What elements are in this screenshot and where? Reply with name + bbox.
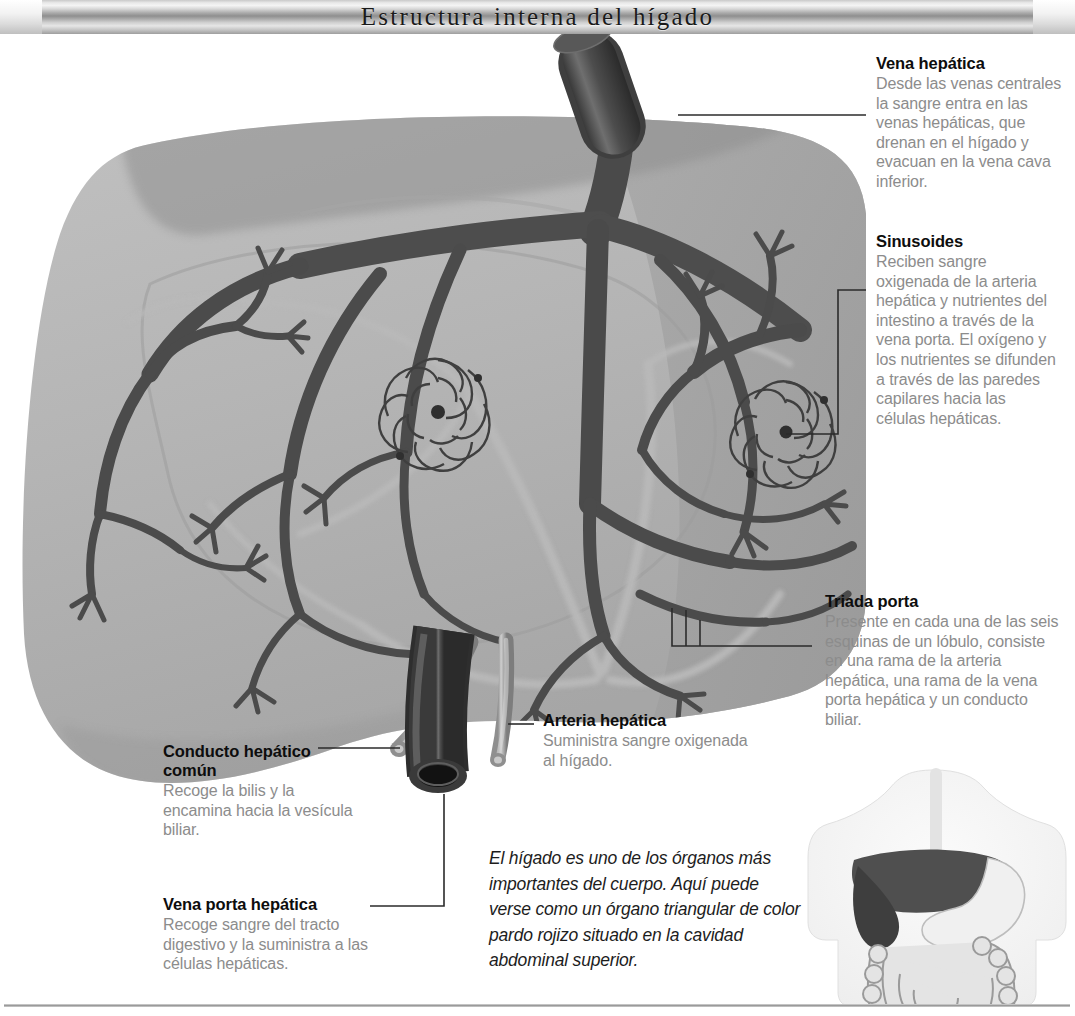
label-heading: Conducto hepático común: [163, 742, 363, 780]
page-title: Estructura interna del hígado: [0, 0, 1075, 34]
label-body: Suministra sangre oxigenada al hígado.: [543, 731, 758, 770]
label-triada-porta: Triada porta Presente en cada una de las…: [825, 592, 1065, 730]
label-body: Desde las venas centrales la sangre entr…: [876, 74, 1062, 192]
bottom-divider: [4, 1004, 1070, 1007]
label-heading: Triada porta: [825, 592, 1065, 611]
label-heading: Vena hepática: [876, 54, 1062, 73]
label-heading: Vena porta hepática: [163, 895, 378, 914]
label-heading: Sinusoides: [876, 232, 1056, 251]
label-vena-hepatica: Vena hepática Desde las venas centrales …: [876, 54, 1062, 192]
label-body: Recoge la bilis y la encamina hacia la v…: [163, 781, 363, 840]
torso-inset: [808, 768, 1066, 1004]
label-body: Reciben sangre oxigenada de la arteria h…: [876, 252, 1056, 428]
hepatic-portal-vein: [409, 630, 467, 793]
label-sinusoides: Sinusoides Reciben sangre oxigenada de l…: [876, 232, 1056, 428]
label-body: Presente en cada una de las seis esquina…: [825, 612, 1065, 730]
title-bar: Estructura interna del hígado: [0, 0, 1075, 34]
leader-vena-porta: [370, 794, 444, 906]
diagram-page: Estructura interna del hígado: [0, 0, 1075, 1016]
label-vena-porta-hepatica: Vena porta hepática Recoge sangre del tr…: [163, 895, 378, 974]
label-heading: Arteria hepática: [543, 711, 758, 730]
figure-caption: El hígado es uno de los órganos más impo…: [489, 846, 805, 974]
label-conducto-hepatico-comun: Conducto hepático común Recoge la bilis …: [163, 742, 363, 840]
label-body: Recoge sangre del tracto digestivo y la …: [163, 915, 378, 974]
label-arteria-hepatica: Arteria hepática Suministra sangre oxige…: [543, 711, 758, 770]
esophagus: [930, 768, 942, 864]
